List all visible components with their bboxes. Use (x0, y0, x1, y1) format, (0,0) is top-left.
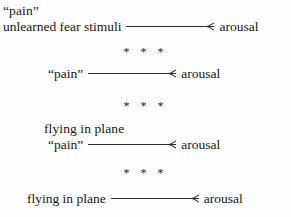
block-3-source: “pain” (48, 137, 83, 152)
block-2-source: “pain” (48, 66, 83, 81)
separator-3: * * * (0, 166, 291, 181)
separator-1: * * * (0, 45, 291, 60)
block-2-relation: “pain” arousal (48, 66, 220, 81)
arrow-right-icon (126, 21, 214, 32)
arrow-right-icon (111, 193, 199, 204)
arrow-right-icon (88, 139, 176, 150)
block-1-relation: unlearned fear stimuli arousal (3, 19, 258, 34)
block-1-source: unlearned fear stimuli (3, 19, 121, 34)
separator-2: * * * (0, 99, 291, 114)
block-1-target: arousal (219, 19, 258, 34)
arrow-right-icon (88, 68, 176, 79)
block-4-relation: flying in plane arousal (27, 191, 243, 206)
diagram-page: “pain” unlearned fear stimuli arousal * … (0, 0, 291, 217)
block-2-target: arousal (181, 66, 220, 81)
block-1-label-above: “pain” (3, 3, 39, 18)
block-3-target: arousal (181, 137, 220, 152)
block-3-label-above: flying in plane (44, 121, 124, 136)
block-3-relation: “pain” arousal (48, 137, 220, 152)
block-4-source: flying in plane (27, 191, 106, 206)
block-4-target: arousal (204, 191, 243, 206)
